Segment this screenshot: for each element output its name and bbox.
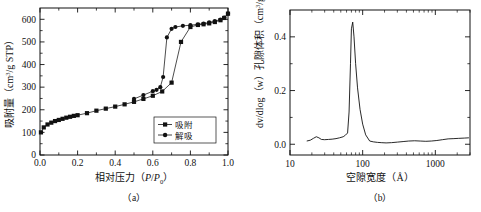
panel-a-xlabel: 相对压力（P/P0）	[95, 171, 173, 185]
panel-b-ytick-0.0: 0.0	[274, 140, 286, 150]
panel-a-ytick-300: 300	[22, 82, 37, 92]
panel-b-caption: （b）	[368, 192, 393, 203]
panel-b-xtick-100: 100	[356, 159, 371, 169]
panel-a-point	[45, 122, 49, 126]
panel-a-ytick-400: 400	[22, 60, 37, 70]
panel-a-point	[123, 102, 127, 106]
panel-a-point	[64, 116, 68, 120]
figure-root: 0.00.20.40.60.81.00100200300400500600 吸附…	[0, 0, 481, 212]
panel-b-axes	[290, 10, 470, 155]
panel-a-point	[132, 97, 136, 101]
panel-b-plot: 1010010000.00.20.4 dv/dlog（w）孔隙体积（cm3/g）…	[240, 0, 481, 212]
panel-a-point	[141, 97, 145, 101]
panel-a-point	[173, 25, 177, 29]
panel-a-point	[113, 105, 117, 109]
panel-a-point	[201, 22, 205, 26]
panel-b: 1010010000.00.20.4 dv/dlog（w）孔隙体积（cm3/g）…	[240, 0, 481, 212]
panel-a-point	[94, 109, 98, 113]
panel-a-point	[165, 35, 169, 39]
panel-a-point	[104, 107, 108, 111]
panel-a-point	[218, 17, 222, 21]
panel-a-series	[39, 12, 230, 135]
panel-a-point	[188, 23, 192, 27]
panel-a-tick-labels: 0.00.20.40.60.81.00100200300400500600	[22, 15, 234, 168]
panel-a-point	[85, 111, 89, 115]
panel-a-point	[49, 121, 53, 125]
panel-a-point	[57, 118, 61, 122]
panel-a-point	[226, 12, 230, 16]
panel-a-xtick-0.8: 0.8	[184, 158, 196, 168]
panel-a-xtick-0.4: 0.4	[109, 158, 121, 168]
panel-a-point	[158, 85, 162, 89]
panel-a-caption: （a）	[122, 192, 146, 203]
panel-a-legend: 吸附 解吸	[154, 117, 216, 143]
panel-b-line-0	[307, 22, 469, 143]
panel-a-point	[68, 115, 72, 119]
panel-a-point	[154, 88, 158, 92]
panel-a-point	[179, 40, 183, 44]
panel-a-point	[161, 75, 165, 79]
panel-a: 0.00.20.40.60.81.00100200300400500600 吸附…	[0, 0, 240, 212]
panel-b-ytick-0.2: 0.2	[274, 86, 286, 96]
panel-a-point	[170, 81, 174, 85]
panel-b-xtick-1000: 1000	[426, 159, 445, 169]
panel-a-point	[207, 20, 211, 24]
panel-b-xlabel: 空隙宽度（Å）	[346, 171, 413, 183]
panel-a-xtick-1.0: 1.0	[222, 158, 234, 168]
panel-a-point	[76, 113, 80, 117]
panel-a-ytick-600: 600	[22, 15, 37, 25]
panel-b-xtick-10: 10	[285, 159, 295, 169]
panel-a-point	[42, 125, 46, 129]
panel-a-ylabel: 吸附量（cm3/g STP）	[3, 35, 15, 128]
panel-b-tick-labels: 1010010000.00.20.4	[274, 32, 445, 169]
panel-a-point	[151, 89, 155, 93]
panel-a-point	[60, 117, 64, 121]
panel-a-ytick-200: 200	[22, 105, 37, 115]
panel-a-xtick-0.6: 0.6	[147, 158, 159, 168]
panel-a-point	[213, 19, 217, 23]
legend-label-desorption: 解吸	[175, 131, 193, 141]
panel-a-xtick-0.2: 0.2	[72, 158, 84, 168]
panel-a-ytick-0: 0	[31, 150, 36, 160]
panel-a-point	[196, 22, 200, 26]
panel-a-point	[151, 94, 155, 98]
panel-a-line-0	[41, 14, 228, 133]
panel-a-point	[160, 89, 164, 93]
panel-a-point	[72, 114, 76, 118]
panel-b-ylabel: dv/dlog（w）孔隙体积（cm3/g）	[253, 0, 265, 128]
panel-a-point	[53, 119, 57, 123]
panel-b-series	[307, 22, 469, 143]
panel-b-ticks	[290, 10, 470, 155]
panel-a-point	[181, 24, 185, 28]
panel-a-point	[222, 15, 226, 19]
panel-a-plot: 0.00.20.40.60.81.00100200300400500600 吸附…	[0, 0, 240, 212]
panel-a-ytick-100: 100	[22, 128, 37, 138]
panel-a-point	[39, 130, 43, 134]
legend-label-adsorption: 吸附	[175, 120, 193, 130]
panel-b-ytick-0.4: 0.4	[274, 32, 286, 42]
panel-a-point	[141, 93, 145, 97]
panel-a-point	[170, 27, 174, 31]
panel-a-ytick-500: 500	[22, 37, 37, 47]
